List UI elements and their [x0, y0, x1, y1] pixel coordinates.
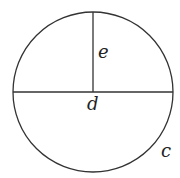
radius-label: e: [98, 41, 109, 62]
circumference-label: c: [161, 140, 171, 161]
diameter-label: d: [87, 93, 99, 114]
circle-diagram: e d c: [0, 0, 180, 178]
